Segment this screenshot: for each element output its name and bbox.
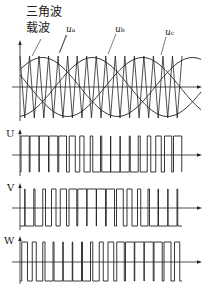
x-axis-arrow-icon <box>197 260 202 263</box>
leader-line-ua <box>60 35 66 52</box>
label-W: W <box>4 236 14 246</box>
leader-line-uc <box>161 37 166 55</box>
label-ua-subscript: a <box>72 26 76 33</box>
label-U: U <box>6 129 14 139</box>
output-U-plot <box>12 129 202 176</box>
leader-line-triangle <box>32 39 41 56</box>
spwm-diagram <box>0 0 206 296</box>
label-V: V <box>7 183 14 193</box>
pwm-waveform-V <box>20 189 182 226</box>
y-axis-arrow-icon <box>18 40 21 45</box>
pwm-waveform-U <box>20 136 182 172</box>
output-W-plot <box>12 236 202 284</box>
output-V-plot <box>12 183 202 230</box>
y-axis-arrow-icon <box>18 129 21 134</box>
label-ub-subscript: b <box>121 26 125 33</box>
leader-line-ub <box>108 34 116 54</box>
x-axis-arrow-icon <box>197 85 202 88</box>
label-triangle-wave: 三角波 <box>26 6 62 18</box>
pwm-waveform-W <box>20 242 182 281</box>
label-ub: ub <box>115 25 125 34</box>
label-uc-subscript: c <box>171 29 174 36</box>
x-axis-arrow-icon <box>197 153 202 156</box>
x-axis-arrow-icon <box>197 206 202 209</box>
y-axis-arrow-icon <box>18 236 21 241</box>
label-uc: uc <box>165 28 174 37</box>
label-carrier-wave: 载波 <box>26 22 50 34</box>
label-ua: ua <box>66 25 75 34</box>
y-axis-arrow-icon <box>18 183 21 188</box>
modulation-plot <box>12 34 202 121</box>
